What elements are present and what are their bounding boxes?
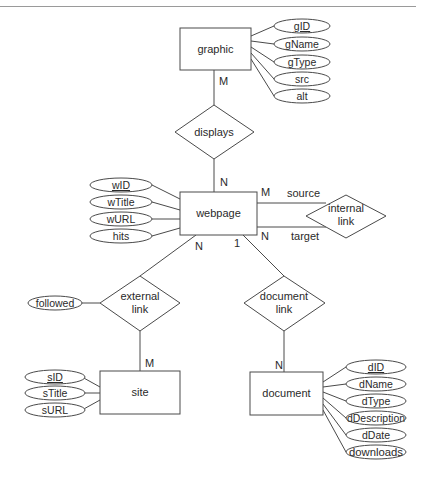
attribute-label: dType xyxy=(362,395,391,407)
attr-link xyxy=(323,384,346,387)
attribute-label: gName xyxy=(285,38,319,50)
attribute-label: src xyxy=(295,73,309,85)
attr-link xyxy=(152,202,180,210)
attribute-label: hits xyxy=(113,230,129,242)
attribute-surl[interactable]: sURL xyxy=(25,403,85,417)
relationship-label-line1: internal xyxy=(328,202,364,214)
attribute-label: dDate xyxy=(362,429,390,441)
entity-webpage[interactable]: webpage xyxy=(180,192,257,235)
cardinality-external-site: M xyxy=(145,357,154,369)
attr-link xyxy=(251,59,274,96)
attribute-gid[interactable]: gID xyxy=(274,19,330,33)
attr-link xyxy=(152,185,180,199)
entity-label: webpage xyxy=(195,207,241,219)
attribute-wurl[interactable]: wURL xyxy=(90,212,152,226)
attribute-label: dDescription xyxy=(347,412,405,424)
attribute-label: alt xyxy=(296,90,307,102)
role-label-source: source xyxy=(287,187,320,199)
attribute-label: downloads xyxy=(349,446,403,458)
er-diagram: graphic webpage site document displays i… xyxy=(0,0,430,481)
attr-link xyxy=(251,26,274,36)
attr-link xyxy=(251,47,274,62)
attribute-alt[interactable]: alt xyxy=(274,89,330,103)
attr-link xyxy=(251,53,274,79)
attribute-label: wTitle xyxy=(106,196,134,208)
attribute-downloads[interactable]: downloads xyxy=(346,445,406,459)
cardinality-internal-source: M xyxy=(261,186,270,198)
relationship-external-link[interactable]: external link xyxy=(100,276,180,331)
cardinality-webpage-external: N xyxy=(195,240,203,252)
entity-site[interactable]: site xyxy=(100,371,180,414)
relationship-label-line2: link xyxy=(276,303,293,315)
relationship-label-line2: link xyxy=(338,215,355,227)
attribute-gname[interactable]: gName xyxy=(274,37,330,51)
entity-document[interactable]: document xyxy=(250,372,323,415)
cardinality-doclink-document: N xyxy=(275,359,283,371)
cardinality-internal-target: N xyxy=(261,230,269,242)
attribute-ddate[interactable]: dDate xyxy=(346,428,406,442)
relationship-label-line1: external xyxy=(120,290,159,302)
attribute-dname[interactable]: dName xyxy=(346,377,406,391)
attribute-label: wID xyxy=(111,179,131,191)
cardinality-webpage-document: 1 xyxy=(234,237,240,249)
entity-label: document xyxy=(262,387,310,399)
attribute-ddescription[interactable]: dDescription xyxy=(346,411,406,425)
entity-label: site xyxy=(131,386,148,398)
attr-link xyxy=(323,392,346,401)
attribute-stitle[interactable]: sTitle xyxy=(25,386,85,400)
attribute-label: gType xyxy=(288,56,317,68)
attr-link xyxy=(251,41,274,44)
relationship-label: displays xyxy=(194,126,234,138)
attribute-label: sURL xyxy=(42,404,68,416)
relationship-label-line1: document xyxy=(260,290,308,302)
attr-link xyxy=(323,367,346,382)
attribute-hits[interactable]: hits xyxy=(90,229,152,243)
relationship-displays[interactable]: displays xyxy=(175,105,254,159)
relationship-document-link[interactable]: document link xyxy=(244,276,325,331)
attribute-dtype[interactable]: dType xyxy=(346,394,406,408)
attribute-src[interactable]: src xyxy=(274,72,330,86)
role-label-target: target xyxy=(291,230,319,242)
entity-graphic[interactable]: graphic xyxy=(180,28,251,70)
cardinality-displays-webpage: N xyxy=(220,176,228,188)
cardinality-graphic-displays: M xyxy=(219,75,228,87)
attribute-label: dID xyxy=(368,361,385,373)
attr-link xyxy=(152,228,180,236)
relationship-label-line2: link xyxy=(132,303,149,315)
attribute-label: gID xyxy=(294,20,311,32)
attribute-followed[interactable]: followed xyxy=(28,296,82,310)
attribute-label: sTitle xyxy=(43,387,68,399)
attribute-did[interactable]: dID xyxy=(346,360,406,374)
attribute-label: followed xyxy=(36,297,75,309)
attribute-gtype[interactable]: gType xyxy=(274,55,330,69)
attribute-label: sID xyxy=(47,371,63,383)
attribute-label: wURL xyxy=(106,213,136,225)
entity-label: graphic xyxy=(197,43,234,55)
attribute-sid[interactable]: sID xyxy=(25,370,85,384)
webpage-external-line xyxy=(140,235,196,276)
attribute-label: dName xyxy=(359,378,393,390)
attribute-wtitle[interactable]: wTitle xyxy=(90,195,152,209)
attribute-wid[interactable]: wID xyxy=(90,178,152,192)
